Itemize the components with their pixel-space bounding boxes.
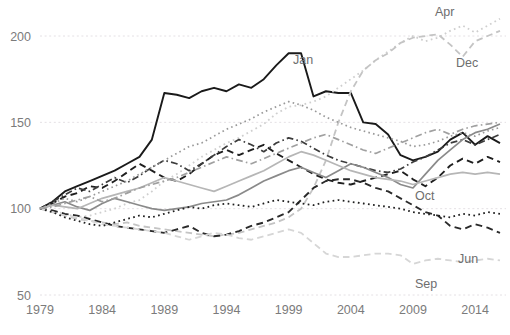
x-tick-label-1989: 1989 bbox=[150, 303, 178, 317]
series-line-apr bbox=[40, 19, 500, 218]
y-tick-label-150: 150 bbox=[10, 116, 31, 130]
x-axis-tick-labels: 19791984198919941999200420092014 bbox=[26, 303, 489, 317]
series-inline-labels-group: JanAprDecOctJunSep bbox=[293, 5, 478, 291]
line-chart: 50100150200 1979198419891994199920042009… bbox=[0, 0, 510, 335]
x-tick-label-1999: 1999 bbox=[275, 303, 303, 317]
x-tick-label-2014: 2014 bbox=[461, 303, 489, 317]
y-tick-label-100: 100 bbox=[10, 202, 31, 216]
y-tick-label-50: 50 bbox=[17, 289, 31, 303]
series-label-sep: Sep bbox=[415, 277, 437, 291]
series-label-jun: Jun bbox=[458, 252, 478, 266]
x-tick-label-1984: 1984 bbox=[88, 303, 116, 317]
series-label-jan: Jan bbox=[293, 53, 313, 67]
x-tick-label-1994: 1994 bbox=[213, 303, 241, 317]
series-label-dec: Dec bbox=[456, 56, 478, 70]
series-line-dec bbox=[40, 31, 500, 236]
series-lines-group bbox=[40, 19, 500, 264]
y-axis-tick-labels: 50100150200 bbox=[10, 30, 31, 303]
series-label-apr: Apr bbox=[435, 5, 454, 19]
chart-canvas: 50100150200 1979198419891994199920042009… bbox=[0, 0, 510, 335]
y-tick-label-200: 200 bbox=[10, 30, 31, 44]
x-tick-label-1979: 1979 bbox=[26, 303, 54, 317]
x-tick-label-2009: 2009 bbox=[399, 303, 427, 317]
series-line-jun bbox=[40, 179, 500, 236]
series-line-sep bbox=[40, 209, 500, 264]
x-tick-label-2004: 2004 bbox=[337, 303, 365, 317]
series-label-oct: Oct bbox=[415, 189, 435, 203]
